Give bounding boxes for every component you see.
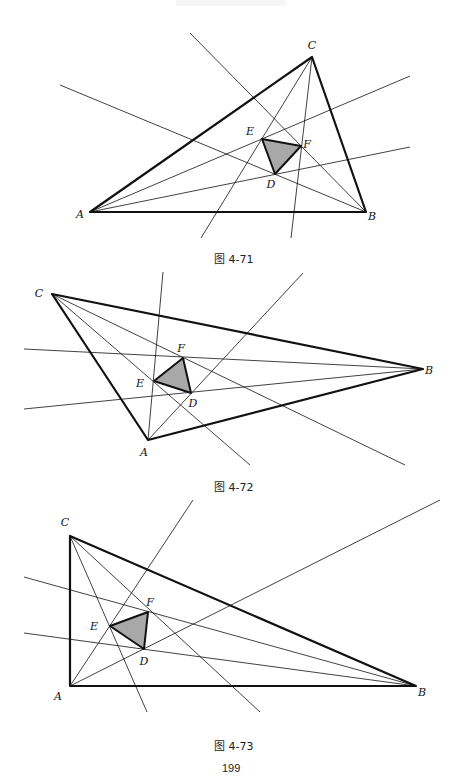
point-label-B: B: [417, 686, 426, 699]
figure-fig-4-71: ABCEFD: [60, 33, 410, 238]
construction-line: [90, 76, 410, 212]
figure-caption: 图 4-71: [214, 250, 253, 266]
point-label-F: F: [176, 342, 185, 355]
point-label-C: C: [35, 287, 44, 300]
inner-triangle-DEF: [262, 139, 301, 174]
point-label-C: C: [61, 516, 70, 529]
point-label-D: D: [266, 178, 276, 191]
page-number: 199: [222, 762, 240, 774]
inner-triangle-DEF: [154, 358, 191, 393]
point-label-D: D: [188, 397, 198, 410]
point-label-A: A: [53, 690, 62, 703]
point-label-D: D: [139, 655, 149, 668]
construction-line: [52, 294, 405, 465]
outer-triangle-ABC: [90, 57, 366, 212]
point-label-B: B: [424, 364, 433, 377]
point-label-E: E: [89, 620, 98, 633]
construction-line: [60, 85, 366, 212]
figure-caption: 图 4-72: [214, 478, 253, 494]
point-label-E: E: [245, 125, 254, 138]
figure-fig-4-72: ABCEFD: [24, 272, 433, 465]
construction-line: [70, 500, 193, 686]
outer-triangle-ABC: [70, 536, 416, 686]
geometry-page: ABCEFDABCEFDABCEFD: [0, 0, 463, 782]
construction-line: [70, 500, 440, 686]
outer-triangle-ABC: [52, 294, 423, 440]
point-label-A: A: [75, 208, 84, 221]
figure-fig-4-73: ABCEFD: [24, 500, 440, 712]
point-label-E: E: [135, 377, 144, 390]
figure-caption: 图 4-73: [214, 737, 253, 753]
point-label-A: A: [139, 446, 148, 459]
construction-line: [24, 577, 416, 686]
construction-line: [24, 369, 423, 409]
point-label-C: C: [308, 39, 317, 52]
point-label-B: B: [367, 210, 376, 223]
point-label-F: F: [145, 596, 154, 609]
point-label-F: F: [302, 138, 311, 151]
